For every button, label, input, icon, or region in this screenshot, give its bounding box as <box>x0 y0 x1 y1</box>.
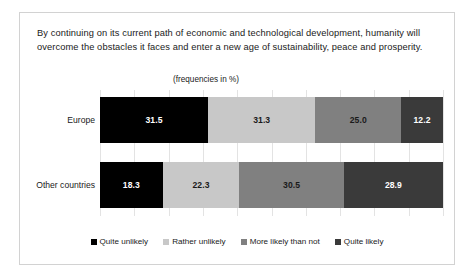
legend-swatch-icon <box>163 239 169 245</box>
frequencies-note: (frequencies in %) <box>20 75 392 84</box>
category-label: Europe <box>0 97 95 143</box>
legend-label: Quite likely <box>344 237 384 246</box>
bar-segment: 25.0 <box>315 97 401 143</box>
bar-value-label: 31.5 <box>145 115 162 125</box>
bar-segment: 18.3 <box>100 162 163 208</box>
chart-legend: Quite unlikelyRather unlikelyMore likely… <box>20 237 454 246</box>
bar-row: Other countries18.322.330.528.9 <box>100 162 443 208</box>
legend-swatch-icon <box>241 239 247 245</box>
bar-value-label: 18.3 <box>123 180 140 190</box>
plot-area: Europe31.531.325.012.2Other countries18.… <box>100 90 443 216</box>
bar-value-label: 22.3 <box>192 180 209 190</box>
bar-segment: 12.2 <box>401 97 443 143</box>
category-label: Other countries <box>0 162 95 208</box>
bar-segment: 31.5 <box>100 97 208 143</box>
legend-swatch-icon <box>335 239 341 245</box>
legend-item: Rather unlikely <box>163 237 226 246</box>
legend-swatch-icon <box>91 239 97 245</box>
bar-row: Europe31.531.325.012.2 <box>100 97 443 143</box>
legend-label: Quite unlikely <box>100 237 149 246</box>
bar-value-label: 30.5 <box>283 180 300 190</box>
question-statement: By continuing on its current path of eco… <box>37 26 439 54</box>
bar-segment: 30.5 <box>239 162 344 208</box>
legend-label: More likely than not <box>250 237 320 246</box>
legend-item: Quite likely <box>335 237 384 246</box>
legend-item: More likely than not <box>241 237 320 246</box>
bar-value-label: 31.3 <box>253 115 270 125</box>
bar-segment: 22.3 <box>163 162 239 208</box>
legend-label: Rather unlikely <box>172 237 226 246</box>
bar-segment: 31.3 <box>208 97 315 143</box>
gridline <box>443 90 444 216</box>
bar-value-label: 28.9 <box>385 180 402 190</box>
bar-segment: 28.9 <box>344 162 443 208</box>
legend-item: Quite unlikely <box>91 237 149 246</box>
bar-value-label: 12.2 <box>414 115 431 125</box>
chart-figure: By continuing on its current path of eco… <box>19 12 455 265</box>
bar-value-label: 25.0 <box>350 115 367 125</box>
